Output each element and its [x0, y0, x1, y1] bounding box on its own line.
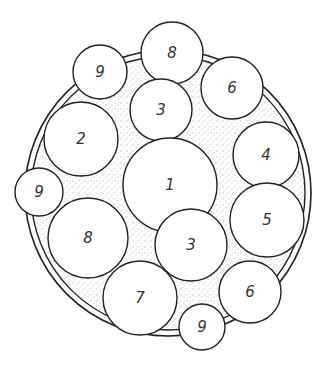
numbered-circle-9: 9	[73, 45, 127, 99]
circle-label: 6	[227, 79, 237, 97]
numbered-circle-4: 4	[233, 122, 299, 188]
circle-label: 3	[156, 101, 166, 119]
numbered-circle-3: 3	[130, 79, 192, 141]
numbered-circle-2: 2	[44, 102, 118, 176]
numbered-circle-7: 7	[103, 261, 177, 335]
circle-label: 7	[135, 289, 145, 307]
circle-label: 2	[76, 130, 86, 148]
circle-label: 8	[167, 44, 177, 62]
circle-label: 9	[34, 183, 44, 201]
numbered-circle-5: 5	[230, 183, 304, 257]
circle-label: 6	[245, 283, 255, 301]
circle-label: 9	[95, 63, 105, 81]
numbered-circles: 89632419583769	[15, 22, 304, 350]
numbered-circle-9: 9	[15, 168, 63, 216]
numbered-circle-8: 8	[48, 198, 128, 278]
numbered-circle-6: 6	[201, 57, 263, 119]
numbered-circle-3: 3	[155, 209, 227, 281]
numbered-circle-9: 9	[179, 304, 225, 350]
circle-label: 8	[83, 229, 93, 247]
circle-label: 1	[165, 176, 175, 194]
numbered-circle-8: 8	[141, 22, 203, 84]
circle-label: 9	[197, 318, 207, 336]
circle-packing-diagram: 89632419583769	[0, 0, 326, 367]
circle-label: 5	[262, 211, 272, 229]
numbered-circle-6: 6	[219, 261, 281, 323]
circle-label: 4	[261, 146, 271, 164]
circle-label: 3	[186, 236, 196, 254]
